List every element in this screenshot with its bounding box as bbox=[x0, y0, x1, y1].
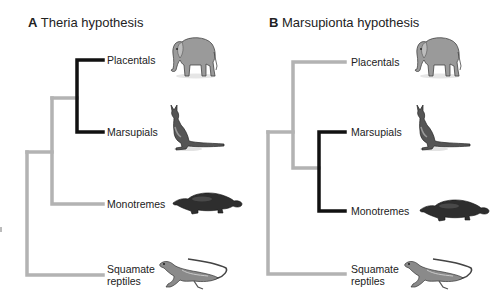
platypus-icon bbox=[172, 189, 244, 217]
panel-marsupionta: B Marsupionta hypothesis Placentals Mars… bbox=[251, 0, 502, 302]
taxon-label-marsupials: Marsupials bbox=[351, 126, 402, 138]
kangaroo-icon bbox=[412, 103, 472, 153]
elephant-icon bbox=[406, 32, 464, 82]
lizard-icon bbox=[403, 256, 475, 292]
taxon-label-squamates: Squamate reptiles bbox=[107, 263, 155, 287]
taxon-label-monotremes: Monotremes bbox=[351, 205, 409, 217]
label-line: Squamate bbox=[107, 263, 155, 275]
lizard-icon bbox=[158, 256, 230, 292]
taxon-label-placentals: Placentals bbox=[107, 54, 155, 66]
clade-theria bbox=[77, 60, 103, 132]
elephant-icon bbox=[162, 32, 220, 82]
clade-marsupionta bbox=[319, 132, 345, 211]
label-line: Squamate bbox=[351, 263, 399, 275]
taxon-label-squamates: Squamate reptiles bbox=[351, 263, 399, 287]
kangaroo-icon bbox=[166, 103, 226, 153]
branch-squamate bbox=[268, 132, 345, 274]
taxon-label-placentals: Placentals bbox=[351, 56, 399, 68]
label-line: reptiles bbox=[107, 275, 155, 287]
panel-theria: A Theria hypothesis Placentals Marsupial… bbox=[0, 0, 251, 302]
platypus-icon bbox=[419, 196, 491, 224]
branch-squamate bbox=[27, 152, 103, 275]
label-line: reptiles bbox=[351, 275, 399, 287]
taxon-label-marsupials: Marsupials bbox=[107, 126, 158, 138]
taxon-label-monotremes: Monotremes bbox=[107, 198, 165, 210]
